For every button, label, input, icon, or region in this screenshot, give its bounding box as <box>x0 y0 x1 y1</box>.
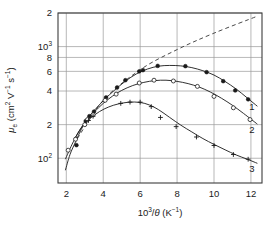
datapoint-2-8 <box>152 78 156 82</box>
xlabel-unit-open: (K <box>160 207 173 218</box>
ytick-label-800: 8 <box>47 52 52 63</box>
ytick-label-400: 4 <box>47 85 52 96</box>
ytick-label-2000: 2 <box>47 7 52 18</box>
xtick-label-2: 2 <box>64 188 69 199</box>
ytick-label-600: 6 <box>47 66 52 77</box>
datapoint-1-12 <box>221 79 225 83</box>
datapoint-2-10 <box>195 84 199 88</box>
datapoint-2-7 <box>137 81 141 85</box>
ylabel-open: (cm <box>5 105 16 124</box>
datapoint-2-11 <box>212 94 216 98</box>
curve-end-label-1: 1 <box>249 101 254 112</box>
curve-end-label-3: 3 <box>249 163 254 174</box>
xtick-label-12: 12 <box>246 188 257 199</box>
datapoint-2-5 <box>103 98 107 102</box>
datapoint-2-12 <box>231 106 235 110</box>
xtick-label-6: 6 <box>138 188 143 199</box>
datapoint-2-9 <box>171 79 175 83</box>
xtick-label-8: 8 <box>174 188 179 199</box>
datapoint-1-13 <box>233 89 237 93</box>
datapoint-1-8 <box>141 68 145 72</box>
datapoint-1-7 <box>137 69 141 73</box>
datapoint-1-9 <box>156 64 160 68</box>
datapoint-2-6 <box>114 92 118 96</box>
datapoint-1-10 <box>183 64 187 68</box>
datapoint-2-2 <box>83 123 87 127</box>
datapoint-1-11 <box>205 70 209 74</box>
datapoint-1-5 <box>115 86 119 90</box>
datapoint-2-0 <box>66 148 70 152</box>
datapoint-1-6 <box>123 78 127 82</box>
xlabel-unit-close: ) <box>179 207 182 218</box>
datapoint-2-13 <box>248 118 252 122</box>
datapoint-2-3 <box>86 118 90 122</box>
figure-container: 24681012 21038642102 123 103/θ (K−1) μe … <box>0 0 275 225</box>
ytick-label-200: 2 <box>47 119 52 130</box>
datapoint-2-1 <box>74 137 78 141</box>
ylabel-close: ) <box>5 67 16 70</box>
mobility-vs-inverse-temperature-chart: 24681012 21038642102 123 103/θ (K−1) μe … <box>0 0 275 225</box>
curve-end-label-2: 2 <box>249 124 254 135</box>
datapoint-1-0 <box>75 143 79 147</box>
xtick-label-4: 4 <box>101 188 106 199</box>
xtick-label-10: 10 <box>209 188 220 199</box>
xlabel-base: 10 <box>138 207 149 218</box>
